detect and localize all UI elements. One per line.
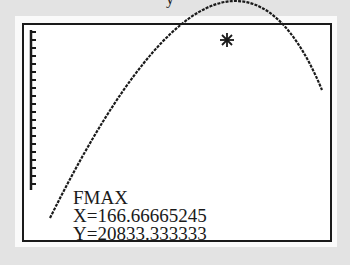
parabola-curve — [50, 1, 322, 218]
star-cursor-icon — [220, 33, 234, 47]
y-value-readout: Y=20833.333333 — [73, 224, 207, 243]
